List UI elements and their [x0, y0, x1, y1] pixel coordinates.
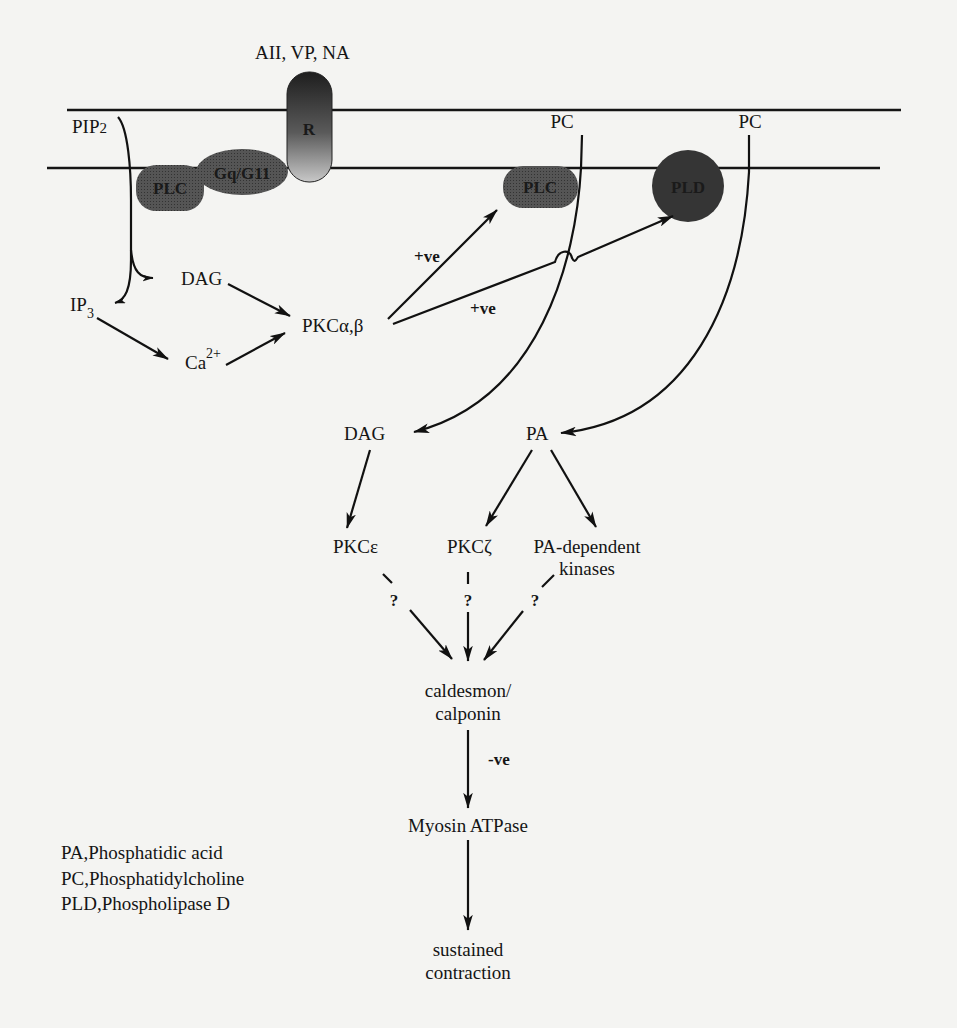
- question-mark-3: ?: [531, 591, 540, 610]
- minus-ve-label: -ve: [488, 750, 510, 769]
- legend-item-pa: PA,Phosphatidic acid: [61, 840, 244, 866]
- pa-to-pa-kinases-arrow: [551, 450, 596, 527]
- pa-label: PA: [526, 423, 549, 444]
- pc-left-label: PC: [550, 111, 573, 132]
- ip3-to-calcium-arrow: [97, 318, 168, 359]
- g-protein: Gq/G11: [196, 149, 288, 195]
- pip2-label: PIP2: [72, 116, 107, 137]
- pld-label: PLD: [671, 178, 705, 197]
- pkc-epsilon-label: PKCε: [333, 536, 378, 557]
- caldesmon-label-line1: caldesmon/: [425, 680, 512, 701]
- pkc-alpha-beta-label: PKCα,β: [302, 315, 363, 336]
- myosin-atpase-label: Myosin ATPase: [408, 815, 528, 836]
- dag-top-label: DAG: [181, 268, 222, 289]
- plc-left-label: PLC: [153, 179, 187, 198]
- abbreviation-legend: PA,Phosphatidic acid PC,Phosphatidylchol…: [61, 840, 244, 917]
- receptor: R: [287, 72, 332, 182]
- pkc-zeta-label: PKCζ: [447, 536, 492, 557]
- pa-to-pkc-zeta-arrow: [486, 450, 532, 526]
- plc-left: PLC: [136, 165, 204, 211]
- g-protein-label: Gq/G11: [214, 164, 271, 183]
- outcome-label-line2: contraction: [425, 962, 511, 983]
- figure-canvas: AII, VP, NA R Gq/G11 PLC PIP2 PLC: [0, 0, 957, 1028]
- pa-kinases-to-caldesmon-arrow: [484, 611, 523, 660]
- legend-item-pc: PC,Phosphatidylcholine: [61, 866, 244, 892]
- plus-ve-label-1: +ve: [414, 247, 440, 266]
- pkc-to-pld-arrow: [393, 216, 673, 324]
- calcium-to-pkc-arrow: [226, 333, 285, 365]
- pa-kinases-label-line2: kinases: [559, 558, 615, 579]
- dag-to-pkc-epsilon-arrow: [347, 450, 370, 528]
- agonists-label: AII, VP, NA: [255, 42, 350, 63]
- caldesmon-label-line2: calponin: [435, 703, 501, 724]
- dash-pkc-epsilon: [383, 574, 392, 583]
- ip3-label: IP3: [70, 294, 94, 321]
- plc-right: PLC: [503, 166, 578, 208]
- dag-to-pkc-arrow: [228, 284, 290, 316]
- pip2-to-ip3-arrow: [115, 117, 131, 303]
- legend-item-pld: PLD,Phospholipase D: [61, 891, 244, 917]
- question-mark-2: ?: [464, 591, 473, 610]
- dash-pa-kinases: [542, 575, 554, 587]
- receptor-label: R: [303, 120, 316, 139]
- plc-right-label: PLC: [523, 178, 557, 197]
- pa-kinases-label-line1: PA-dependent: [534, 536, 642, 557]
- plus-ve-label-2: +ve: [470, 299, 496, 318]
- outcome-label-line1: sustained: [433, 939, 504, 960]
- pld: PLD: [652, 150, 724, 222]
- dag-bottom-label: DAG: [344, 423, 385, 444]
- pc-right-label: PC: [738, 111, 761, 132]
- calcium-label: Ca2+: [185, 346, 221, 373]
- pkc-epsilon-to-caldesmon-arrow: [410, 610, 452, 659]
- pip2-to-dag-arrow: [131, 250, 153, 278]
- question-mark-1: ?: [390, 591, 399, 610]
